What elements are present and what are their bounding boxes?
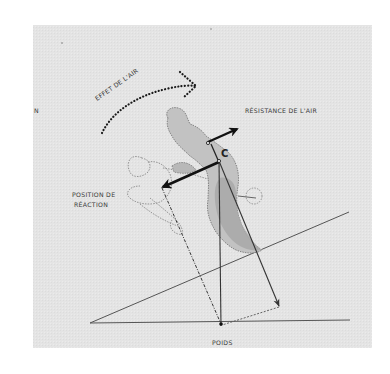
diagram-panel [33, 25, 372, 348]
air-resistance-label: RÉSISTANCE DE L'AIR [245, 107, 317, 114]
speck-mark [210, 28, 212, 30]
left-edge-fragment-label: N [34, 107, 39, 114]
center-of-mass-label: C [221, 148, 228, 159]
speck-mark [61, 42, 63, 44]
reaction-position-label-line2: RÉACTION [74, 201, 108, 208]
air-resistance-origin-point [206, 141, 209, 144]
ski-physics-diagram: C EFFET DE L'AIR RÉSISTANCE DE L'AIR POS… [0, 0, 390, 374]
weight-label: POIDS [212, 339, 233, 346]
center-of-mass-point [217, 159, 220, 162]
reaction-position-label-line1: POSITION DE [72, 191, 115, 198]
weight-point [219, 322, 223, 326]
